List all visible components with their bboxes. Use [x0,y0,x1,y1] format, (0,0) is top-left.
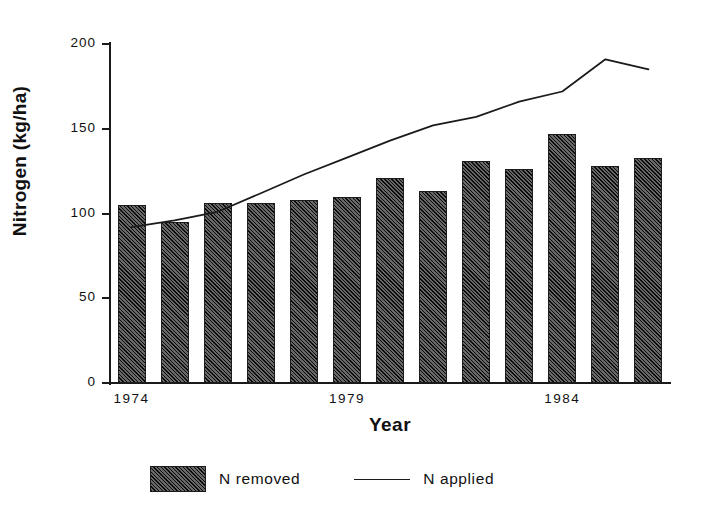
x-axis-title: Year [110,414,670,436]
plot-area [110,44,670,383]
y-tick-mark [102,128,109,130]
chart-figure: Nitrogen (kg/ha) 050100150200 1974197919… [0,0,714,520]
y-tick-label: 100 [0,205,96,220]
bar-n-removed [247,203,275,383]
x-tick-label: 1974 [114,391,150,406]
x-tick-label: 1979 [329,391,365,406]
bar-n-removed [548,134,576,383]
legend-item-n-removed: N removed [150,466,300,492]
y-tick-label: 0 [0,374,96,389]
chart-legend: N removed N applied [150,462,570,496]
bar-n-removed [634,158,662,383]
bar-n-removed [419,191,447,383]
y-tick-mark [102,382,109,384]
legend-label-n-applied: N applied [423,470,494,488]
bar-n-removed [161,222,189,383]
y-tick-label: 50 [0,289,96,304]
legend-swatch-line-icon [354,479,410,480]
legend-label-n-removed: N removed [219,470,300,488]
y-tick-mark [102,297,109,299]
y-tick-mark [102,213,109,215]
bar-n-removed [505,169,533,383]
bar-n-removed [462,161,490,383]
x-tick-label: 1984 [544,391,580,406]
y-tick-mark [102,43,109,45]
bar-n-removed [118,205,146,383]
bar-n-removed [333,197,361,383]
bar-n-removed [290,200,318,383]
bar-n-removed [376,178,404,383]
legend-item-n-applied: N applied [354,470,494,488]
bar-n-removed [204,203,232,383]
y-tick-label: 200 [0,35,96,50]
bar-n-removed [591,166,619,383]
y-tick-label: 150 [0,120,96,135]
legend-swatch-bar-icon [150,466,206,492]
